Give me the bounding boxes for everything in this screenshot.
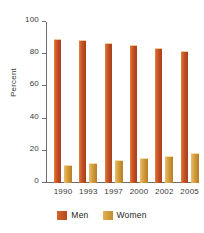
bar-group: 2000 <box>130 22 155 183</box>
x-tick-label-1997: 1997 <box>100 187 128 196</box>
y-tick-label-100: 100 <box>25 15 39 24</box>
y-tick-80: 80 <box>42 53 46 54</box>
bar-group: 2005 <box>181 22 204 183</box>
y-tick-0: 0 <box>42 182 46 183</box>
bar-women <box>140 158 148 183</box>
bar-group: 1990 <box>54 22 79 183</box>
bar-men <box>54 39 61 183</box>
legend-label-women: Women <box>117 210 147 220</box>
bar-men <box>130 45 137 183</box>
bar-men <box>105 43 112 183</box>
bar-women <box>115 160 123 183</box>
y-tick-20: 20 <box>42 150 46 151</box>
bar-chart: Percent 020406080100 1990199319972000200… <box>0 0 204 233</box>
y-tick-label-40: 40 <box>30 112 39 121</box>
chart-legend: MenWomen <box>0 210 204 220</box>
y-tick-label-80: 80 <box>30 47 39 56</box>
x-tick-label-2002: 2002 <box>150 187 178 196</box>
y-tick-40: 40 <box>42 118 46 119</box>
legend-item-women[interactable]: Women <box>103 210 147 220</box>
x-tick-label-2005: 2005 <box>176 187 204 196</box>
y-tick-label-0: 0 <box>34 176 39 185</box>
plot-area: 020406080100 199019931997200020022005 <box>46 22 198 183</box>
y-axis-title: Percent <box>9 48 18 118</box>
y-tick-label-20: 20 <box>30 144 39 153</box>
x-tick-label-1993: 1993 <box>74 187 102 196</box>
y-tick-60: 60 <box>42 85 46 86</box>
bar-men <box>155 48 162 183</box>
bar-women <box>64 165 72 183</box>
bar-group: 1993 <box>79 22 104 183</box>
bar-women <box>191 153 199 183</box>
x-tick-label-1990: 1990 <box>49 187 77 196</box>
bar-group: 1997 <box>105 22 130 183</box>
legend-label-men: Men <box>71 210 88 220</box>
y-axis-line <box>46 22 47 183</box>
bar-men <box>79 40 86 183</box>
bar-women <box>165 156 173 183</box>
bar-men <box>181 51 188 183</box>
bar-women <box>89 163 97 183</box>
x-tick-label-2000: 2000 <box>125 187 153 196</box>
legend-item-men[interactable]: Men <box>57 210 88 220</box>
legend-swatch-women <box>103 211 113 220</box>
legend-swatch-men <box>57 211 67 220</box>
bar-group: 2002 <box>155 22 180 183</box>
y-tick-label-60: 60 <box>30 79 39 88</box>
y-tick-100: 100 <box>42 21 46 22</box>
